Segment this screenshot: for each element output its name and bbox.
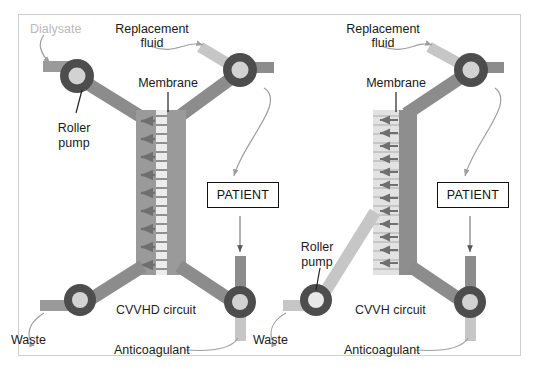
caption-cvvh-circuit: CVVH circuit	[355, 303, 426, 317]
right-membrane-blood-compartment	[399, 110, 417, 275]
left-roller-pump-access[interactable]	[224, 286, 256, 318]
label-anticoagulant-left: Anticoagulant	[114, 343, 190, 357]
label-waste-right: Waste	[253, 333, 288, 347]
patient-in-leader	[234, 88, 271, 176]
label-replacement-fluid-left-line2: fluid	[97, 36, 207, 50]
left-roller-pump-waste[interactable]	[64, 284, 96, 316]
right-roller-pump-replacement[interactable]	[454, 53, 488, 87]
anticoagulant-leader	[185, 338, 238, 351]
left-roller-pump-dialysate[interactable]	[60, 59, 94, 93]
roller-pump-leader	[76, 90, 82, 113]
label-replacement-fluid-left-line1: Replacement	[97, 22, 207, 36]
label-roller-pump-right-line2: pump	[285, 255, 349, 269]
right-patient-in-leader	[465, 88, 501, 176]
left-blood-access-tube	[179, 266, 229, 299]
left-membrane-blood-compartment	[166, 110, 186, 275]
right-blood-access-tube	[410, 266, 459, 299]
label-membrane-right: Membrane	[356, 76, 436, 90]
right-roller-pump-access[interactable]	[454, 286, 486, 318]
label-roller-pump-right-line1: Roller	[285, 240, 349, 254]
label-replacement-fluid-right-line2: fluid	[328, 36, 438, 50]
right-anticoagulant-leader	[415, 338, 468, 351]
caption-cvvhd-circuit: CVVHD circuit	[116, 303, 196, 317]
label-roller-pump-left-line1: Roller	[42, 121, 106, 135]
left-roller-pump-replacement[interactable]	[223, 53, 257, 87]
label-replacement-fluid-right-line1: Replacement	[328, 22, 438, 36]
figure-container: Dialysate Replacement fluid Membrane Rol…	[0, 0, 537, 386]
dialysate-leader	[40, 35, 50, 63]
label-waste-left: Waste	[11, 333, 46, 347]
label-roller-pump-left-line2: pump	[42, 136, 106, 150]
label-anticoagulant-right: Anticoagulant	[344, 343, 420, 357]
label-membrane-left: Membrane	[128, 76, 208, 90]
label-dialysate: Dialysate	[30, 22, 81, 36]
patient-box-right: PATIENT	[437, 182, 509, 208]
patient-box-left: PATIENT	[207, 182, 279, 208]
